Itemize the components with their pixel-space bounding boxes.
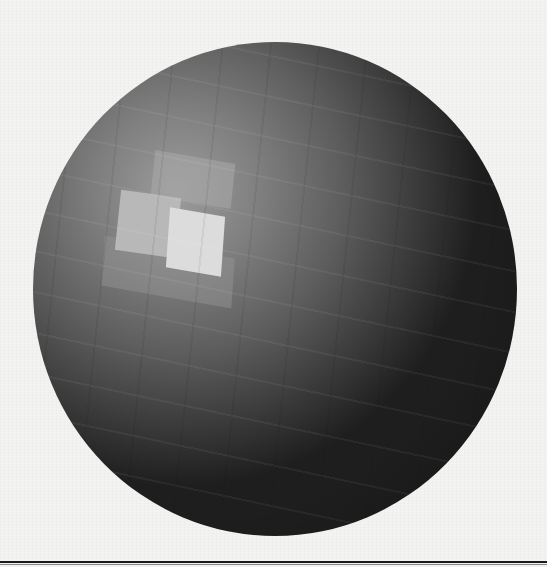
sphere-parallel-lines — [33, 42, 517, 536]
sphere-facets — [33, 42, 517, 536]
sphere-meridian-lines — [33, 42, 517, 536]
facet-highlight-lower — [101, 236, 234, 309]
facet-highlight-left — [115, 190, 181, 258]
horizontal-rule-shadow — [0, 564, 547, 565]
sphere-figure — [33, 42, 517, 536]
horizontal-rule — [0, 561, 547, 563]
facet-highlight-upper — [151, 150, 236, 209]
facet-specular-highlight — [166, 207, 225, 277]
shaded-sphere — [33, 42, 517, 536]
